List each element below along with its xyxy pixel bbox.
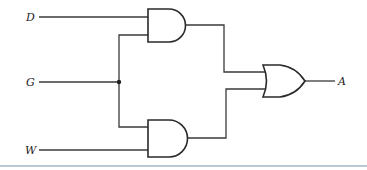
logic-circuit-diagram: D G W A [0, 0, 367, 170]
input-label-g: G [26, 76, 35, 89]
output-label-a: A [337, 75, 346, 88]
junction-dot [117, 80, 121, 84]
input-label-w: W [25, 144, 38, 157]
and-gate-1 [148, 9, 186, 42]
or-gate [263, 65, 305, 97]
wire-and1-to-or [185, 25, 266, 72]
input-label-d: D [25, 11, 35, 24]
wire-g-branch [119, 35, 148, 127]
and-gate-2 [148, 120, 188, 157]
wire-and2-to-or [186, 89, 266, 138]
